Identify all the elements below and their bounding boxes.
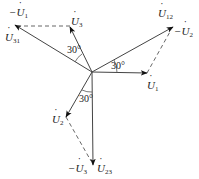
phasor-diagram bbox=[0, 0, 199, 179]
label-subscript: 3 bbox=[79, 21, 83, 29]
label-sign: − bbox=[174, 25, 181, 37]
label-symbol: U bbox=[16, 7, 24, 18]
label-symbol: U bbox=[97, 163, 105, 174]
label-subscript: 2 bbox=[60, 119, 64, 127]
label-subscript: 12 bbox=[166, 13, 173, 21]
phasor-u12 bbox=[92, 27, 173, 72]
dashed-neg-u2 bbox=[147, 30, 171, 73]
angle-arc-upper-left bbox=[75, 54, 82, 62]
label-neg-u3: −U3 bbox=[68, 163, 87, 176]
label-subscript: 2 bbox=[189, 31, 193, 39]
angle-label-right: 30° bbox=[111, 61, 125, 71]
label-subscript: 23 bbox=[105, 168, 112, 176]
label-subscript: 31 bbox=[13, 37, 20, 45]
label-neg-u2: −U2 bbox=[174, 26, 193, 39]
label-symbol: U bbox=[71, 16, 79, 27]
label-neg-u1: −U1 bbox=[9, 7, 28, 20]
label-symbol: U bbox=[5, 32, 13, 43]
label-subscript: 1 bbox=[155, 85, 159, 93]
angle-label-upper-left: 30° bbox=[67, 45, 81, 55]
angle-arc-lower bbox=[82, 90, 92, 92]
label-u2: U2 bbox=[52, 114, 63, 127]
label-subscript: 1 bbox=[24, 12, 28, 20]
label-sign: − bbox=[68, 162, 75, 174]
label-symbol: U bbox=[52, 114, 60, 125]
label-u1: U1 bbox=[147, 80, 158, 93]
label-u12: U12 bbox=[158, 8, 173, 21]
label-sign: − bbox=[9, 6, 16, 18]
label-symbol: U bbox=[75, 163, 83, 174]
label-u3: U3 bbox=[71, 16, 82, 29]
label-subscript: 3 bbox=[83, 168, 87, 176]
label-symbol: U bbox=[181, 26, 189, 37]
label-u23: U23 bbox=[97, 163, 112, 176]
label-symbol: U bbox=[147, 80, 155, 91]
phasor-u1 bbox=[92, 72, 147, 73]
angle-label-lower: 30° bbox=[79, 94, 93, 104]
label-symbol: U bbox=[158, 8, 166, 19]
label-u31: U31 bbox=[5, 32, 20, 45]
phasor-u23 bbox=[92, 72, 93, 165]
